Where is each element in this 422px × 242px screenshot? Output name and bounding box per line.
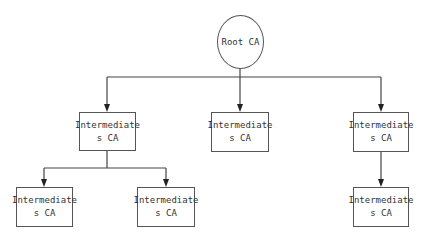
intermediate-ca-left: Intermediate s CA — [79, 112, 136, 151]
node-label-line1: Intermediate — [75, 119, 140, 132]
node-label-line1: Intermediate — [348, 194, 413, 207]
node-label-line2: s CA — [229, 132, 251, 145]
node-label-line1: Intermediate — [133, 194, 198, 207]
intermediate-ca-bottom-left: Intermediate s CA — [16, 187, 73, 227]
node-label-line1: Intermediate — [12, 194, 77, 207]
root-ca-label: Root CA — [222, 36, 260, 49]
node-label-line2: s CA — [370, 132, 392, 145]
node-label-line1: Intermediate — [348, 119, 413, 132]
node-label-line2: s CA — [34, 207, 56, 220]
node-label-line2: s CA — [370, 207, 392, 220]
intermediate-ca-bottom-right: Intermediate s CA — [353, 187, 409, 227]
node-label-line1: Intermediate — [207, 119, 272, 132]
node-label-line2: s CA — [97, 132, 119, 145]
root-ca-node: Root CA — [217, 15, 264, 69]
intermediate-ca-middle: Intermediate s CA — [211, 112, 269, 152]
node-label-line2: s CA — [155, 207, 177, 220]
intermediate-ca-bottom-middle: Intermediate s CA — [137, 187, 195, 227]
intermediate-ca-right: Intermediate s CA — [353, 112, 409, 152]
